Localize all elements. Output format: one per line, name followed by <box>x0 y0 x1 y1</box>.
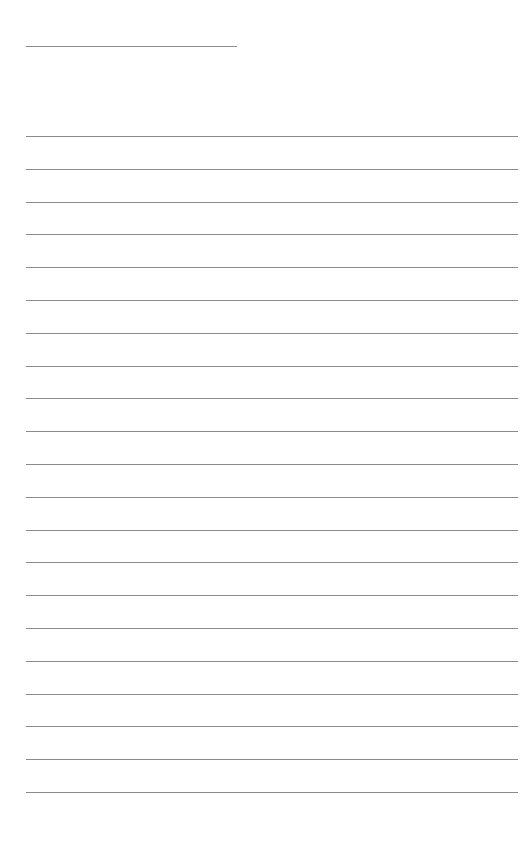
ruled-line <box>26 595 518 596</box>
ruled-line <box>26 267 518 268</box>
ruled-line <box>26 366 518 367</box>
ruled-line <box>26 169 518 170</box>
ruled-line <box>26 202 518 203</box>
ruled-line <box>26 333 518 334</box>
ruled-line <box>26 661 518 662</box>
ruled-line <box>26 136 518 137</box>
ruled-line <box>26 628 518 629</box>
ruled-line <box>26 759 518 760</box>
ruled-line <box>26 464 518 465</box>
ruled-line <box>26 497 518 498</box>
header-line <box>26 46 237 47</box>
ruled-line <box>26 792 518 793</box>
ruled-line <box>26 530 518 531</box>
ruled-line <box>26 431 518 432</box>
ruled-line <box>26 398 518 399</box>
ruled-line <box>26 234 518 235</box>
ruled-line <box>26 300 518 301</box>
ruled-line <box>26 726 518 727</box>
ruled-line <box>26 562 518 563</box>
ruled-line <box>26 694 518 695</box>
